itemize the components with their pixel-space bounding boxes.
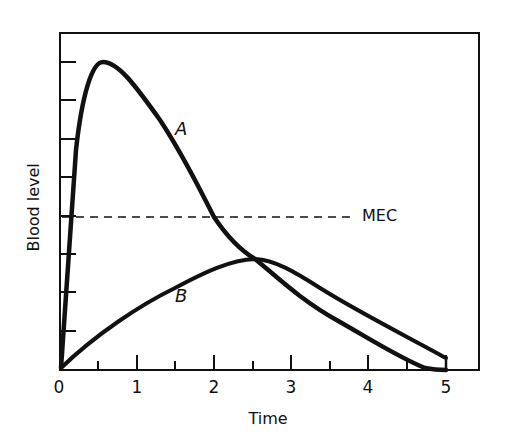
x-tick-label-3: 3 <box>286 377 297 397</box>
x-tick-label-4: 4 <box>363 377 374 397</box>
x-tick-label-5: 5 <box>441 377 452 397</box>
chart-canvas <box>0 0 508 441</box>
x-axis-title: Time <box>248 409 287 428</box>
curve-a-label: A <box>175 118 187 139</box>
y-axis-title: Blood level <box>24 166 43 252</box>
mec-label: MEC <box>362 206 397 225</box>
curve-b-label: B <box>175 285 187 306</box>
x-tick-label-0: 0 <box>54 377 65 397</box>
x-tick-label-1: 1 <box>132 377 143 397</box>
x-axis-ticks <box>98 355 446 370</box>
x-tick-label-2: 2 <box>209 377 220 397</box>
